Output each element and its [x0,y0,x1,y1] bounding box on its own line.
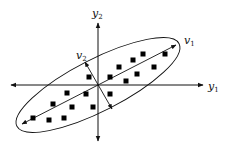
data-point [108,92,113,97]
data-point [87,75,92,80]
data-point [117,65,122,70]
data-point [124,79,129,84]
data-point [135,72,140,77]
y2-label: y2 [91,7,103,21]
v2-label: v2 [76,49,87,63]
data-point [141,52,146,57]
data-point [152,65,157,70]
data-point [131,58,136,63]
data-point [70,105,75,110]
data-point [163,52,168,57]
data-point [47,118,52,123]
data-point [51,102,56,107]
data-point [108,75,113,80]
data-point [31,116,36,121]
pca-diagram: y2 y1 v1 v2 [0,0,225,150]
v1-label: v1 [184,34,195,48]
data-point [84,92,89,97]
data-point [62,116,67,121]
data-point [91,105,96,110]
y1-label: y1 [207,80,219,94]
data-point [65,91,70,96]
